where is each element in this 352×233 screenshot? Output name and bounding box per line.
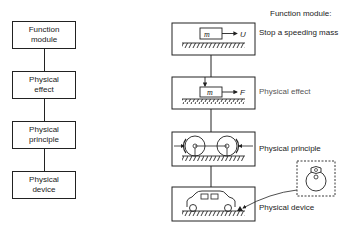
force-symbol: F — [240, 88, 246, 97]
mass-symbol: m — [204, 30, 210, 39]
speeding-mass-illustration — [172, 23, 255, 55]
function-module-header: Function module: — [270, 9, 331, 18]
label-physical-effect: Physical effect — [259, 87, 310, 96]
label-stop-speeding-mass: Stop a speeding mass — [259, 28, 338, 37]
brake-wheels-illustration — [172, 132, 255, 166]
velocity-symbol: U — [240, 30, 246, 39]
label-physical-principle: Physical principle — [259, 144, 321, 153]
label-physical-device: Physical device — [259, 203, 314, 212]
mass-symbol: m — [207, 88, 213, 97]
car-illustration — [172, 187, 255, 221]
brake-detail-callout — [243, 161, 335, 208]
